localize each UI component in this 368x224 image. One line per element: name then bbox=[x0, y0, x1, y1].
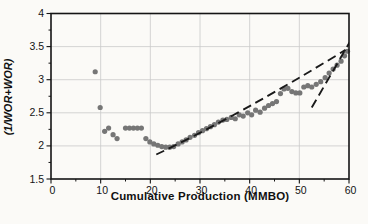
data-point bbox=[106, 125, 111, 130]
y-tick-label: 1.5 bbox=[29, 173, 44, 185]
y-axis-title: (1/WOR+WOR) bbox=[2, 31, 16, 163]
data-point bbox=[318, 79, 323, 84]
data-point bbox=[98, 105, 103, 110]
data-point bbox=[257, 110, 262, 115]
y-tick-label: 4 bbox=[38, 7, 44, 19]
data-point bbox=[139, 125, 144, 130]
x-axis-title: Cumulative Production (MMBO) bbox=[51, 190, 349, 202]
data-point bbox=[249, 112, 254, 117]
y-tick-label: 2 bbox=[38, 139, 44, 151]
data-point bbox=[274, 99, 279, 104]
data-point bbox=[309, 84, 314, 89]
y-tick-label: 3.5 bbox=[29, 40, 44, 52]
y-tick-label: 2.5 bbox=[29, 106, 44, 118]
data-point bbox=[102, 129, 107, 134]
data-point bbox=[314, 82, 319, 87]
data-point bbox=[338, 59, 343, 64]
wor-decline-scatter-figure: 01020304050601.522.533.54 (1/WOR+WOR) Cu… bbox=[0, 0, 368, 224]
data-point bbox=[93, 69, 98, 74]
data-point bbox=[241, 114, 246, 119]
data-point bbox=[253, 108, 258, 113]
trend-lines-group bbox=[156, 40, 351, 155]
data-point bbox=[278, 91, 283, 96]
data-point bbox=[143, 136, 148, 141]
data-point bbox=[297, 90, 302, 95]
y-tick-label: 3 bbox=[38, 73, 44, 85]
data-point bbox=[327, 70, 332, 75]
data-point bbox=[114, 136, 119, 141]
data-point bbox=[233, 116, 238, 121]
data-point bbox=[110, 132, 115, 137]
